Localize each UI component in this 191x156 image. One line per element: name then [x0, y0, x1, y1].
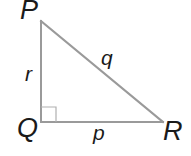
side-label-p: p — [92, 121, 105, 144]
right-angle-marker — [41, 107, 56, 122]
vertex-label-r: R — [163, 116, 183, 146]
vertex-label-p: P — [20, 0, 38, 25]
side-q-hypotenuse-line — [41, 21, 163, 122]
side-label-q: q — [101, 46, 113, 69]
vertex-label-q: Q — [17, 113, 38, 143]
side-label-r: r — [25, 62, 33, 85]
right-triangle-diagram: P Q R r q p — [0, 0, 191, 156]
triangle-edges — [41, 21, 163, 122]
